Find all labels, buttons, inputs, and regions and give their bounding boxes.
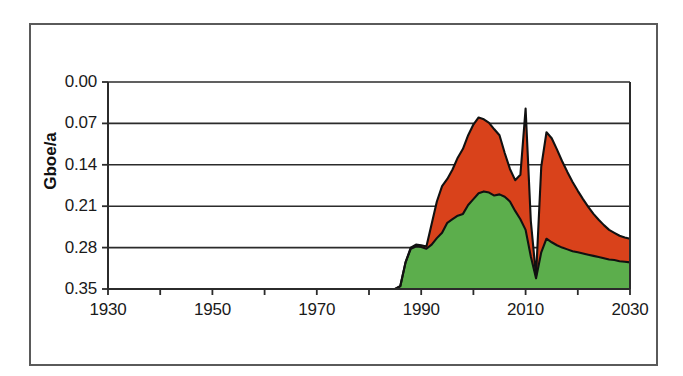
area-series-group	[108, 109, 630, 289]
y-tick-label: 0.07	[33, 114, 97, 131]
y-tick-label: 0.35	[33, 280, 97, 297]
x-tick-label: 1970	[282, 301, 352, 318]
y-tick-label: 0.00	[33, 73, 97, 90]
chart-canvas	[0, 0, 683, 376]
x-tick-label: 1950	[177, 301, 247, 318]
y-tick-label: 0.14	[33, 156, 97, 173]
y-tick-label: 0.28	[33, 239, 97, 256]
chart-figure: Gboe/a 0.350.280.210.140.070.00 19301950…	[0, 0, 683, 376]
x-tick-label: 2010	[491, 301, 561, 318]
x-tick-label: 2030	[595, 301, 665, 318]
y-tick-label: 0.21	[33, 197, 97, 214]
x-tick-label: 1930	[73, 301, 143, 318]
x-tick-label: 1990	[386, 301, 456, 318]
